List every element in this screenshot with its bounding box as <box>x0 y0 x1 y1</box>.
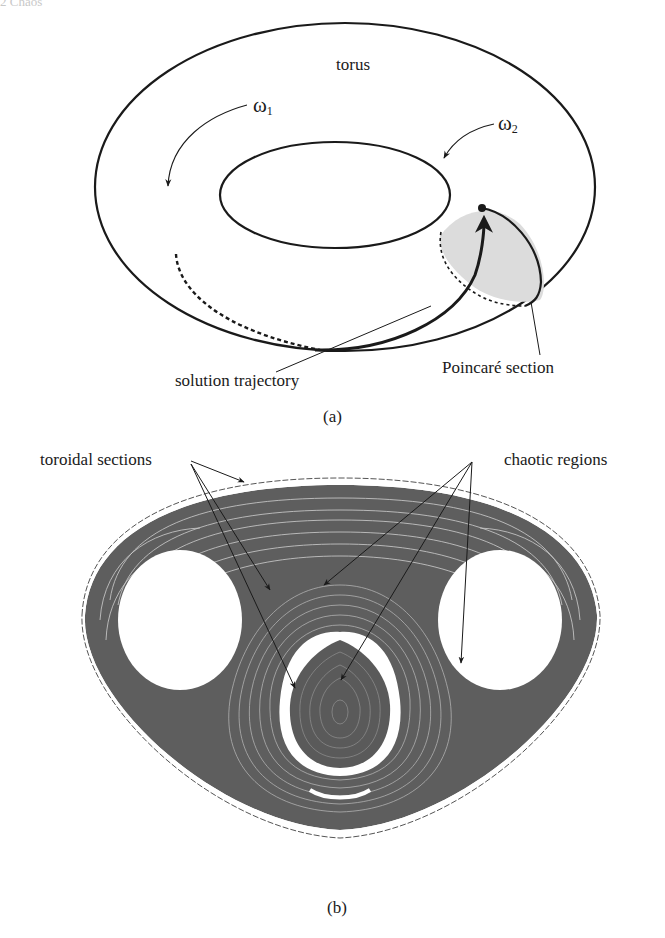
omega2-label: ω2 <box>498 113 518 135</box>
torus-diagram <box>95 23 595 372</box>
poincare-section-label: Poincaré section <box>442 359 554 376</box>
omega2-subscript: 2 <box>512 122 518 136</box>
solution-trajectory-label: solution trajectory <box>175 372 299 389</box>
toroidal-sections-label: toroidal sections <box>40 451 152 468</box>
caption-b: (b) <box>327 899 347 916</box>
figure-canvas <box>0 0 665 938</box>
omega2-symbol: ω <box>498 111 512 135</box>
trajectory-leader-line <box>276 306 431 372</box>
poincare-map <box>82 478 600 838</box>
caption-a: (a) <box>323 408 342 425</box>
left-island-lobe <box>118 550 242 690</box>
omega1-symbol: ω <box>253 93 267 117</box>
omega1-subscript: 1 <box>267 104 273 118</box>
omega1-arrow <box>168 105 247 186</box>
poincare-leader-line <box>531 302 540 355</box>
torus-label: torus <box>336 56 370 73</box>
omega1-label: ω1 <box>253 95 273 117</box>
poincare-section-shape <box>440 211 544 302</box>
trajectory-hidden-path <box>176 254 320 350</box>
section-point <box>478 204 486 212</box>
torus-inner-ellipse <box>220 142 450 248</box>
omega2-arrow <box>444 124 494 158</box>
right-island-lobe <box>438 550 562 690</box>
chaotic-regions-label: chaotic regions <box>504 451 607 468</box>
